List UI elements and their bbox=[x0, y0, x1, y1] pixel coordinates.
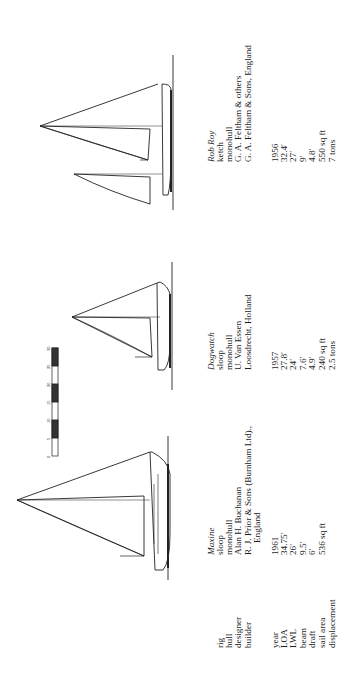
boat-builder-line2: England bbox=[253, 512, 262, 555]
svg-text:15: 15 bbox=[46, 400, 51, 405]
boat-draft: 4.8′ bbox=[308, 149, 317, 163]
svg-text:0: 0 bbox=[46, 455, 51, 458]
boat-displacement: 7 tons bbox=[328, 140, 337, 162]
boat-sail-area: 536 sq ft bbox=[318, 523, 327, 555]
svg-text:5: 5 bbox=[46, 437, 51, 440]
boat-displacement: 2.5 tons bbox=[328, 341, 337, 370]
boat-builder: Loosdrecht, Holland bbox=[244, 294, 253, 370]
boat-lwl: 26′ bbox=[289, 544, 298, 555]
boat-builder: G. A. Feltham & Sons, England bbox=[244, 45, 253, 162]
scale-bar bbox=[52, 348, 58, 456]
boat-designer: G. A. Feltham & others bbox=[234, 76, 243, 162]
boat-draft: 6′ bbox=[308, 548, 317, 555]
svg-text:10: 10 bbox=[46, 418, 51, 423]
dogwatch-drawing bbox=[72, 262, 172, 390]
boat-sail-area: 550 sq ft bbox=[318, 130, 327, 162]
boat-lwl: 27′ bbox=[289, 151, 298, 162]
boat-draft: 4.9′ bbox=[308, 357, 317, 371]
maxine-drawing bbox=[17, 436, 170, 580]
label-lwl: LWL bbox=[289, 629, 298, 648]
svg-text:20: 20 bbox=[46, 382, 51, 387]
label-builder: builder bbox=[244, 622, 253, 648]
sailboat-drawings: 0 5 10 15 20 25 30 bbox=[0, 0, 200, 674]
rob-roy-drawing bbox=[40, 55, 173, 210]
rotated-book-page: 0 5 10 15 20 25 30 rig hull designer bui… bbox=[0, 0, 363, 674]
boat-sail-area: 240 sq ft bbox=[318, 338, 327, 370]
svg-text:30: 30 bbox=[46, 346, 51, 351]
label-draft: draft bbox=[308, 631, 317, 648]
label-designer: designer bbox=[234, 617, 243, 648]
boat-lwl: 24′ bbox=[289, 359, 298, 370]
label-sail-area: sail area bbox=[318, 618, 327, 648]
label-displacement: displacement bbox=[328, 600, 337, 648]
svg-text:25: 25 bbox=[46, 364, 51, 369]
boat-designer: Alan H. Buchanan bbox=[234, 487, 243, 555]
scale-bar-labels: 0 5 10 15 20 25 30 bbox=[46, 346, 51, 458]
boat-designer: U. Van Essen bbox=[234, 321, 243, 370]
